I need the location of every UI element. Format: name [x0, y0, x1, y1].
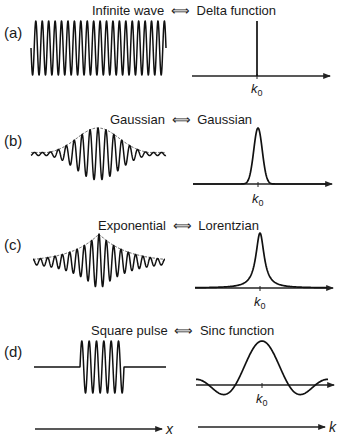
panel-c: (c) Exponential ⟺ Lorentzian k0	[4, 218, 333, 311]
pair-title-b: Gaussian ⟺ Gaussian	[110, 112, 252, 127]
pair-title-c: Exponential ⟺ Lorentzian	[98, 218, 259, 233]
k0-label-a: k0	[251, 81, 263, 98]
fourier-pair-arrow-icon: ⟺	[173, 218, 192, 233]
sinc-spectrum-plot	[196, 341, 334, 395]
bottom-axes: x k	[35, 419, 337, 437]
panel-letter-c: (c)	[4, 236, 22, 253]
lorentzian-curve	[195, 233, 327, 288]
pair-title-a: Infinite wave ⟺ Delta function	[92, 3, 276, 18]
k0-label-d: k0	[256, 391, 268, 408]
pair-title-d: Square pulse ⟺ Sinc function	[91, 323, 274, 338]
right-function-name-a: Delta function	[197, 3, 277, 18]
right-function-name-d: Sinc function	[200, 323, 274, 338]
lorentzian-spectrum-plot	[195, 233, 333, 291]
panel-letter-b: (b)	[4, 132, 22, 149]
left-function-name-d: Square pulse	[91, 323, 168, 338]
fourier-pair-arrow-icon: ⟺	[171, 3, 190, 18]
k-axis-label: k	[329, 419, 337, 435]
left-function-name-c: Exponential	[98, 218, 166, 233]
left-function-name-a: Infinite wave	[92, 3, 164, 18]
square-pulse-wave-plot	[34, 341, 166, 393]
panel-a: (a) Infinite wave ⟺ Delta function k0	[4, 3, 330, 98]
right-function-name-b: Gaussian	[197, 112, 252, 127]
panel-b: (b) Gaussian ⟺ Gaussian k0	[4, 112, 332, 208]
left-function-name-b: Gaussian	[110, 112, 165, 127]
k0-label-c: k0	[254, 294, 266, 311]
delta-function-plot	[192, 21, 330, 79]
fourier-pairs-diagram: (a) Infinite wave ⟺ Delta function k0 (b…	[0, 0, 350, 439]
infinite-wave-plot	[31, 21, 166, 75]
fourier-pair-arrow-icon: ⟺	[172, 112, 191, 127]
right-function-name-c: Lorentzian	[198, 218, 259, 233]
exponential-wave-packet-plot	[33, 234, 165, 287]
panel-d: (d) Square pulse ⟺ Sinc function k0	[4, 323, 334, 408]
gaussian-spectrum-plot	[193, 128, 332, 187]
fourier-pair-arrow-icon: ⟺	[174, 323, 193, 338]
panel-letter-d: (d)	[4, 343, 22, 360]
gaussian-wave-packet-plot	[31, 128, 166, 180]
k0-label-b: k0	[252, 191, 264, 208]
x-axis-label: x	[165, 421, 174, 437]
panel-letter-a: (a)	[4, 24, 22, 41]
gaussian-curve	[193, 128, 326, 184]
